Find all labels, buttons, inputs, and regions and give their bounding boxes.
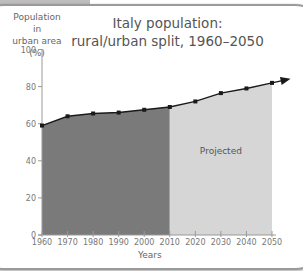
data-point: [66, 114, 70, 118]
x-tick-label: 2010: [160, 238, 180, 247]
area-regions: [42, 83, 272, 235]
data-point: [244, 86, 248, 90]
data-point: [168, 105, 172, 109]
x-tick-label: 1990: [108, 238, 128, 247]
data-point: [142, 108, 146, 112]
data-point: [219, 91, 223, 95]
data-point: [270, 81, 274, 85]
region-projected: [170, 83, 272, 235]
y-tick-label: 60: [26, 120, 36, 129]
x-tick-label: 2030: [211, 238, 231, 247]
region-historical: [42, 107, 170, 235]
arrow-head-icon: [280, 77, 291, 85]
y-tick-label: 20: [26, 194, 36, 203]
data-point: [91, 111, 95, 115]
x-tick-label: 1980: [83, 238, 103, 247]
data-point: [193, 99, 197, 103]
x-tick-label: 2020: [185, 238, 205, 247]
y-tick-label: 80: [26, 83, 36, 92]
data-point: [117, 111, 121, 115]
y-tick-label: 100: [21, 46, 36, 55]
x-tick-label: 1970: [57, 238, 77, 247]
x-tick-label: 2040: [236, 238, 256, 247]
x-tick-label: 1960: [32, 238, 52, 247]
x-tick-label: 2000: [134, 238, 154, 247]
region-labels: Projected: [200, 146, 242, 156]
projected-label: Projected: [200, 146, 242, 156]
y-tick-label: 40: [26, 157, 36, 166]
data-point: [40, 124, 44, 128]
x-tick-label: 2050: [262, 238, 282, 247]
chart-plot: 0204060801001960197019801990200020102020…: [0, 0, 303, 271]
x-axis-label: Years: [138, 250, 162, 260]
